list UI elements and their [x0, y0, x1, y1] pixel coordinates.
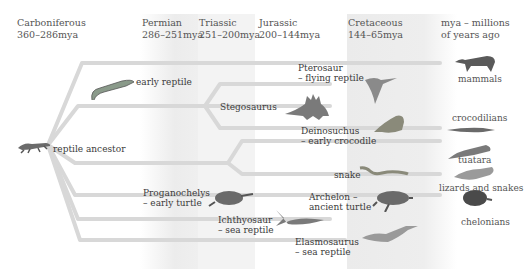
label-line: – sea reptile [295, 247, 359, 257]
snake-icon [358, 165, 410, 177]
label-elasmosaurus: Elasmosaurus – sea reptile [295, 237, 359, 257]
label-chelonians: chelonians [461, 217, 510, 227]
label-line: ancient turtle [309, 202, 371, 212]
label-line: – flying reptile [298, 73, 364, 83]
label-line: – sea reptile [218, 225, 274, 235]
label-line: – early crocodile [301, 136, 376, 146]
label-lizards-and-snakes: lizards and snakes [439, 183, 523, 193]
label-tuatara: tuatara [458, 155, 491, 165]
label-stegosaurus: Stegosaurus [220, 102, 277, 112]
lizard-icon [452, 165, 496, 183]
label-archelon: Archelon – ancient turtle [309, 192, 371, 212]
label-crocodilians: crocodilians [452, 113, 507, 123]
label-line: Proganochelys [143, 188, 210, 198]
pterosaur-icon [361, 66, 401, 106]
label-ichthyosaur: Ichthyosaur – sea reptile [218, 215, 274, 235]
mammal-icon [453, 52, 497, 74]
label-mammals: mammals [458, 74, 502, 84]
deinosuchus-icon [372, 110, 406, 136]
stegosaurus-icon [283, 90, 331, 122]
elasmosaurus-icon [360, 224, 420, 248]
label-snake: snake [334, 170, 361, 180]
label-line: Archelon – [309, 192, 371, 202]
label-pterosaur: Pterosaur – flying reptile [298, 63, 364, 83]
label-line: Ichthyosaur [218, 215, 274, 225]
label-proganochelys: Proganochelys – early turtle [143, 188, 210, 208]
label-line: Pterosaur [298, 63, 364, 73]
crocodilian-icon [445, 125, 497, 135]
label-early-reptile: early reptile [136, 77, 192, 87]
label-line: – early turtle [143, 198, 210, 208]
label-deinosuchus: Deinosuchus – early crocodile [301, 126, 376, 146]
early-reptile-icon [88, 76, 136, 102]
reptile-ancestor-icon [16, 136, 52, 154]
label-reptile-ancestor: reptile ancestor [53, 144, 125, 154]
label-line: Elasmosaurus [295, 237, 359, 247]
archelon-icon [371, 188, 415, 212]
proganochelys-icon [205, 186, 255, 208]
label-line: Deinosuchus [301, 126, 376, 136]
